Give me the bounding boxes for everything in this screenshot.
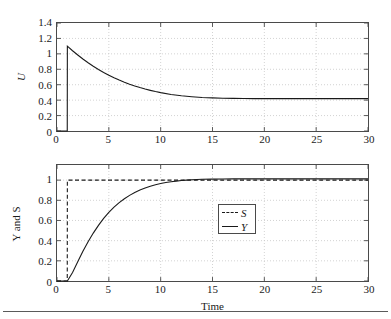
legend-box: S Y [218, 204, 256, 234]
x-tick-label: 25 [311, 134, 322, 145]
x-tick-label: 30 [364, 134, 375, 145]
legend-entry-s: S [219, 206, 255, 220]
y-axis-label-y-and-s: Y and S [10, 194, 22, 254]
y-axis-ticks-y-and-s: 00.20.40.60.81 [0, 164, 52, 282]
y-tick-label: 0.4 [38, 95, 52, 106]
legend-label-y: Y [241, 221, 247, 233]
y-tick-label: 1 [47, 174, 53, 185]
series-line-u [57, 23, 368, 131]
y-tick-label: 0 [47, 127, 53, 138]
x-axis-ticks-u: 051015202530 [56, 134, 369, 148]
y-tick-label: 1.4 [38, 17, 52, 28]
y-tick-label: 0.8 [38, 194, 52, 205]
x-axis-ticks-y-and-s: 051015202530 [56, 284, 369, 298]
x-tick-label: 5 [105, 134, 111, 145]
plot-frame-y-and-s [56, 164, 369, 282]
x-tick-label: 20 [259, 134, 270, 145]
figure-container: 00.20.40.60.811.21.4 051015202530 U 00.2… [0, 0, 391, 319]
x-tick-label: 25 [311, 284, 322, 295]
plot-frame-u [56, 22, 369, 132]
chart-panel-u: 00.20.40.60.811.21.4 051015202530 U [0, 0, 391, 150]
y-tick-label: 0.4 [38, 235, 52, 246]
x-tick-label: 20 [259, 284, 270, 295]
series-lines-y-and-s [57, 165, 368, 281]
x-tick-label: 0 [53, 284, 59, 295]
legend-swatch-dashed-line [222, 212, 238, 213]
legend-entry-y: Y [219, 220, 255, 234]
y-tick-label: 0.2 [38, 111, 52, 122]
x-tick-label: 15 [207, 134, 218, 145]
y-tick-label: 0 [47, 277, 53, 288]
x-tick-label: 0 [53, 134, 59, 145]
x-tick-label: 10 [155, 284, 166, 295]
x-tick-label: 30 [364, 284, 375, 295]
x-tick-label: 5 [105, 284, 111, 295]
y-tick-label: 1 [47, 48, 53, 59]
y-tick-label: 0.8 [38, 64, 52, 75]
x-tick-label: 15 [207, 284, 218, 295]
y-tick-label: 0.6 [38, 79, 52, 90]
bottom-horizontal-rule [3, 311, 388, 312]
legend-swatch-solid-line [222, 226, 238, 227]
y-tick-label: 0.2 [38, 256, 52, 267]
x-tick-label: 10 [155, 134, 166, 145]
legend-label-s: S [241, 207, 247, 219]
y-tick-label: 0.6 [38, 215, 52, 226]
chart-panel-y-and-s: 00.20.40.60.81 051015202530 Y and S Time [0, 150, 391, 319]
y-tick-label: 1.2 [38, 32, 52, 43]
y-axis-label-u: U [15, 47, 27, 107]
